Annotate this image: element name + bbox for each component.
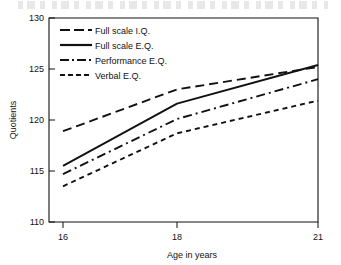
x-tick-label-21: 21 xyxy=(313,232,323,242)
y-tick-label-130: 130 xyxy=(29,13,44,23)
series-line-verbal-eq xyxy=(63,101,318,187)
y-tick-label-115: 115 xyxy=(30,166,44,176)
legend-label-full-scale-iq: Full scale I.Q. xyxy=(95,26,150,36)
plot-frame xyxy=(49,18,318,222)
y-axis-title: Quotients xyxy=(8,100,18,139)
legend-label-verbal-eq: Verbal E.Q. xyxy=(95,71,141,81)
y-tick-label-110: 110 xyxy=(30,217,44,227)
y-tick-label-120: 120 xyxy=(29,115,44,125)
plot-border xyxy=(49,18,318,222)
legend-label-performance-eq: Performance E.Q. xyxy=(95,56,167,66)
chart-legend: Full scale I.Q. Full scale E.Q. Performa… xyxy=(60,26,167,81)
x-axis-ticks xyxy=(63,222,318,228)
legend-item-performance-eq: Performance E.Q. xyxy=(60,56,167,66)
line-chart-canvas: 130 125 120 115 110 16 18 21 Age in year… xyxy=(0,0,341,265)
legend-item-full-scale-iq: Full scale I.Q. xyxy=(60,26,150,36)
x-tick-label-18: 18 xyxy=(172,232,182,242)
legend-item-verbal-eq: Verbal E.Q. xyxy=(60,71,141,81)
x-tick-label-16: 16 xyxy=(58,232,68,242)
legend-item-full-scale-eq: Full scale E.Q. xyxy=(60,41,154,51)
y-axis-ticks xyxy=(49,18,55,222)
legend-label-full-scale-eq: Full scale E.Q. xyxy=(95,41,154,51)
x-axis-title: Age in years xyxy=(167,250,218,260)
chart-figure: 130 125 120 115 110 16 18 21 Age in year… xyxy=(0,0,341,265)
y-tick-label-125: 125 xyxy=(29,64,44,74)
series-line-performance-eq xyxy=(63,79,318,174)
